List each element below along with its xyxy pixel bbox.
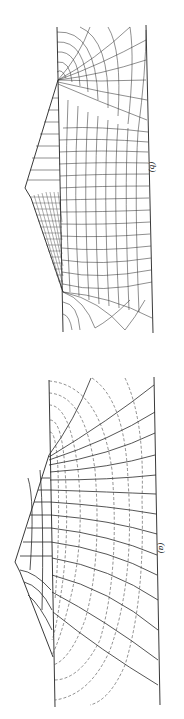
panel-a-embankment-lines (20, 470, 52, 630)
panel-b-upper-fan (58, 27, 147, 120)
panel-b-embankment-grid (28, 98, 60, 180)
figure-canvas (0, 0, 184, 719)
panel-b-diagram (25, 25, 153, 333)
panel-b-label: (b) (148, 162, 158, 173)
panel-a-ground-surface (49, 380, 55, 707)
panel-a-flow-lines (49, 378, 158, 685)
panel-b-main-grid-v (66, 100, 139, 312)
panel-b-ground-surface (57, 27, 63, 332)
panel-b-main-grid-h (59, 128, 152, 289)
panel-a-base-boundary (154, 377, 160, 705)
panel-a-label: (a) (157, 543, 167, 554)
panel-b-upper-arcs (57, 27, 146, 132)
panel-b-base-boundary (146, 25, 153, 333)
panel-b-embankment-outline (25, 80, 63, 292)
panel-a-diagram (15, 377, 160, 707)
